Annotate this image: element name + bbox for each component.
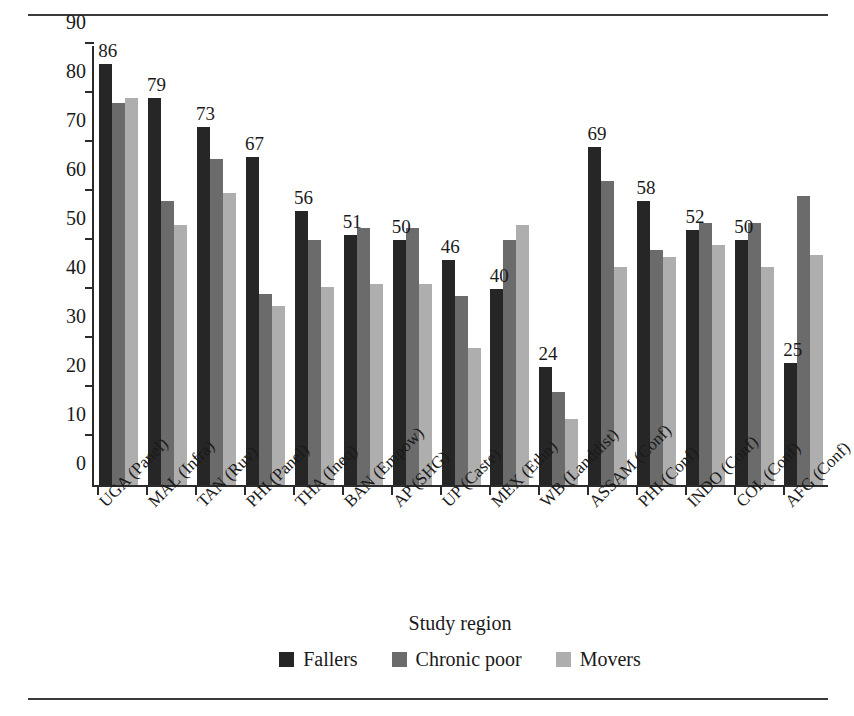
y-tick-mark <box>85 91 94 93</box>
y-tick-mark <box>85 238 94 240</box>
y-tick-label: 50 <box>48 208 86 228</box>
bar-value-label: 50 <box>371 217 431 236</box>
bar-group: 46 <box>437 44 486 485</box>
legend-swatch-icon <box>556 652 571 667</box>
y-tick-label: 80 <box>48 61 86 81</box>
bar[interactable] <box>712 245 725 485</box>
bar-group: 50 <box>730 44 779 485</box>
bar-value-label: 46 <box>420 237 480 256</box>
bar[interactable] <box>370 284 383 485</box>
bar-value-label: 50 <box>714 217 774 236</box>
bar-groups: 867973675651504640246958525025 <box>94 44 828 485</box>
bottom-rule <box>28 698 828 700</box>
bar-value-label: 56 <box>273 188 333 207</box>
bar[interactable] <box>99 64 112 485</box>
legend-label: Fallers <box>303 648 357 671</box>
y-tick-label: 0 <box>48 453 86 473</box>
legend-item[interactable]: Fallers <box>279 648 357 671</box>
y-tick-label: 30 <box>48 306 86 326</box>
bar[interactable] <box>663 257 676 485</box>
bar-value-label: 67 <box>224 134 284 153</box>
bar[interactable] <box>357 228 370 485</box>
bar-value-label: 73 <box>176 104 236 123</box>
bar-group: 50 <box>388 44 437 485</box>
bar[interactable] <box>112 103 125 485</box>
y-tick-label: 20 <box>48 355 86 375</box>
bar-group: 40 <box>486 44 535 485</box>
bar-group: 51 <box>339 44 388 485</box>
bar-group: 69 <box>583 44 632 485</box>
bar-value-label: 69 <box>567 124 627 143</box>
y-tick-mark <box>85 140 94 142</box>
bar-value-label: 86 <box>78 41 138 60</box>
y-tick-mark <box>85 385 94 387</box>
bar[interactable] <box>197 127 210 485</box>
bar[interactable] <box>174 225 187 485</box>
legend-swatch-icon <box>392 652 407 667</box>
bar[interactable] <box>210 159 223 485</box>
legend-label: Chronic poor <box>416 648 522 671</box>
bar[interactable] <box>223 193 236 485</box>
x-axis-title: Study region <box>92 612 828 635</box>
legend-swatch-icon <box>279 652 294 667</box>
bar[interactable] <box>614 267 627 485</box>
bar-group: 25 <box>779 44 828 485</box>
y-tick-mark <box>85 434 94 436</box>
plot-area: % households reporting health shock 0102… <box>92 46 828 487</box>
bar-group: 56 <box>290 44 339 485</box>
y-tick-mark <box>85 189 94 191</box>
bar[interactable] <box>699 223 712 485</box>
chart-legend: FallersChronic poorMovers <box>92 648 828 671</box>
bar-group: 67 <box>241 44 290 485</box>
bar[interactable] <box>148 98 161 485</box>
bar-value-label: 79 <box>127 75 187 94</box>
bar-value-label: 40 <box>469 266 529 285</box>
y-tick-mark <box>85 287 94 289</box>
bar-group: 86 <box>94 44 143 485</box>
top-rule <box>28 14 828 16</box>
y-tick-label: 60 <box>48 159 86 179</box>
y-tick-label: 70 <box>48 110 86 130</box>
y-tick-mark <box>85 336 94 338</box>
y-tick-label: 10 <box>48 404 86 424</box>
bar-group: 52 <box>681 44 730 485</box>
legend-item[interactable]: Movers <box>556 648 641 671</box>
bar[interactable] <box>455 296 468 485</box>
bar-value-label: 24 <box>518 344 578 363</box>
bar[interactable] <box>246 157 259 485</box>
bar[interactable] <box>419 284 432 485</box>
bar-group: 24 <box>534 44 583 485</box>
bar-value-label: 25 <box>763 340 823 359</box>
bar[interactable] <box>810 255 823 485</box>
bar[interactable] <box>761 267 774 485</box>
legend-label: Movers <box>580 648 641 671</box>
bar-group: 73 <box>192 44 241 485</box>
bar[interactable] <box>125 98 138 485</box>
bar-value-label: 58 <box>616 178 676 197</box>
y-tick-label: 40 <box>48 257 86 277</box>
bar-group: 58 <box>632 44 681 485</box>
bar[interactable] <box>308 240 321 485</box>
legend-item[interactable]: Chronic poor <box>392 648 522 671</box>
y-tick-label: 90 <box>48 12 86 32</box>
